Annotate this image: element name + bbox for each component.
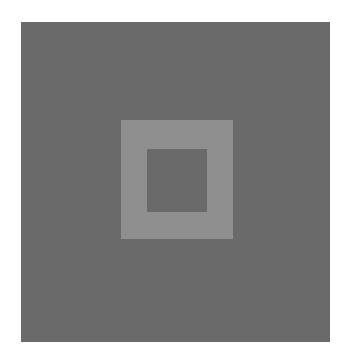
inner-dark-square — [147, 149, 207, 212]
